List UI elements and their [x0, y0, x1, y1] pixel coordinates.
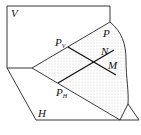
label-pv: PV — [54, 36, 67, 49]
projection-diagram: V H P N M PV PH — [0, 0, 141, 135]
plane-p — [32, 22, 128, 120]
label-p: P — [102, 27, 110, 39]
label-h: H — [37, 107, 47, 119]
label-m: M — [107, 59, 118, 71]
label-v: V — [11, 7, 19, 19]
label-n: N — [100, 45, 109, 57]
